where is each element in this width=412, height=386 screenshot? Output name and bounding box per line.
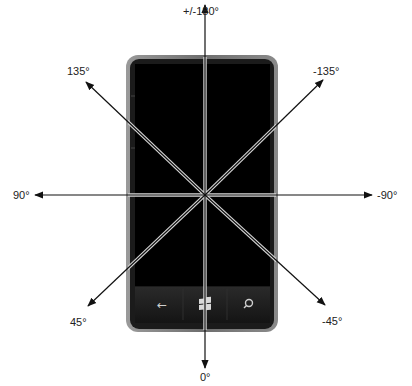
angle-label-left: 90° [13, 189, 30, 201]
axes-highlight [35, 5, 372, 368]
angle-label-up-left: 135° [67, 65, 90, 77]
diagram-canvas: ← [0, 0, 412, 386]
back-button: ← [157, 298, 167, 312]
phone-screen [135, 64, 270, 286]
rotation-diagram: ← +/-180° 0° 90° -9 [0, 0, 412, 386]
back-arrow-icon: ← [157, 298, 167, 312]
angle-label-down: 0° [200, 371, 211, 383]
angle-label-up-right: -135° [313, 65, 339, 77]
angle-label-right: -90° [377, 189, 397, 201]
angle-label-down-right: -45° [322, 315, 342, 327]
angle-label-down-left: 45° [70, 316, 87, 328]
angle-label-up: +/-180° [183, 5, 219, 17]
